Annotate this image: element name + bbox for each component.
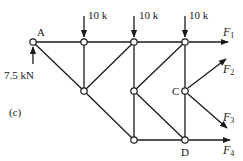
node-A xyxy=(30,39,36,45)
node-C xyxy=(182,88,188,94)
node-D xyxy=(182,137,188,143)
applied-loads: 10 k 10 k 10 k xyxy=(84,9,209,37)
node-M2 xyxy=(131,88,137,94)
member-A-M1 xyxy=(33,42,84,91)
force-label-F4: F4 xyxy=(222,143,234,158)
truss-nodes xyxy=(30,39,188,143)
member-M1-B1 xyxy=(84,91,134,140)
member-T2-M1 xyxy=(84,42,134,91)
unknown-forces: F1 F2 F3 F4 xyxy=(188,25,234,158)
node-T1 xyxy=(81,39,87,45)
node-label-A: A xyxy=(37,26,45,38)
reaction-label-A: 7.5 kN xyxy=(4,69,34,81)
node-B1 xyxy=(131,137,137,143)
force-label-F3: F3 xyxy=(222,110,234,125)
force-arrow-F3 xyxy=(188,94,227,128)
load-label-T1: 10 k xyxy=(88,9,108,21)
node-T3 xyxy=(182,39,188,45)
member-T3-M2 xyxy=(134,42,185,91)
reaction-A: 7.5 kN xyxy=(4,47,34,81)
force-label-F2: F2 xyxy=(222,62,234,77)
node-T2 xyxy=(131,39,137,45)
load-label-T2: 10 k xyxy=(139,9,159,21)
node-M1 xyxy=(81,88,87,94)
member-M2-D xyxy=(134,91,185,140)
truss-members xyxy=(33,42,185,140)
node-label-D: D xyxy=(181,146,189,158)
force-arrow-F2 xyxy=(188,59,226,88)
node-label-C: C xyxy=(172,85,179,97)
panel-label: (c) xyxy=(9,106,22,119)
force-label-F1: F1 xyxy=(222,25,234,40)
load-label-T3: 10 k xyxy=(189,9,209,21)
truss-diagram: 10 k 10 k 10 k 7.5 kN F1 F2 F3 F4 A C D … xyxy=(0,0,243,161)
